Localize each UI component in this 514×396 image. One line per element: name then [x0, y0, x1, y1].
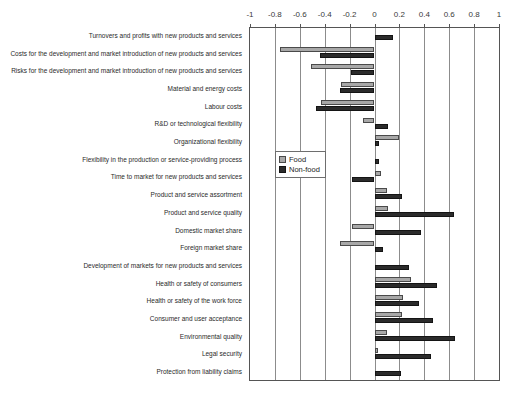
category-label: Risks for the development and market int…	[11, 67, 242, 75]
bar-nonfood	[375, 265, 410, 270]
bar-nonfood	[375, 194, 402, 199]
bar-nonfood	[375, 230, 421, 235]
legend-swatch-nonfood-icon	[279, 166, 286, 173]
bar-row	[250, 99, 499, 117]
category-axis-labels: Turnovers and profits with new products …	[0, 27, 246, 381]
x-tick-label: 0.8	[469, 10, 480, 20]
bar-nonfood	[375, 283, 437, 288]
category-label: Turnovers and profits with new products …	[89, 32, 242, 40]
bar-nonfood	[320, 53, 375, 58]
category-label: Flexibility in the production or service…	[82, 156, 242, 164]
bar-row	[250, 63, 499, 81]
bar-nonfood	[375, 35, 394, 40]
category-label: Foreign market share	[180, 244, 242, 252]
bar-food	[280, 47, 375, 52]
bar-food	[375, 330, 387, 335]
bar-row	[250, 223, 499, 241]
legend-label-food: Food	[289, 155, 306, 164]
bar-food	[375, 206, 389, 211]
x-tick-label: 0.4	[419, 10, 430, 20]
category-label: Consumer and user acceptance	[150, 315, 242, 323]
bar-row	[250, 205, 499, 223]
bar-row	[250, 258, 499, 276]
legend-swatch-food-icon	[279, 156, 286, 163]
category-label: Labour costs	[205, 103, 242, 111]
plot-area	[249, 27, 500, 381]
category-label: Product and service quality	[164, 209, 242, 217]
bar-row	[250, 347, 499, 365]
category-label: Organizational flexibility	[174, 138, 242, 146]
x-tick-mark	[499, 24, 500, 28]
bar-row	[250, 134, 499, 152]
category-label: Legal security	[202, 350, 242, 358]
category-label: Health or safety of consumers	[156, 280, 242, 288]
bar-food	[375, 295, 404, 300]
x-tick-label: 0	[372, 10, 376, 20]
bar-nonfood	[375, 247, 384, 252]
category-label: Health or safety of the work force	[147, 297, 242, 305]
bar-nonfood	[375, 124, 389, 129]
bar-row	[250, 311, 499, 329]
x-tick-label: -0.8	[268, 10, 282, 20]
bar-row	[250, 240, 499, 258]
bar-food	[363, 118, 374, 123]
x-tick-label: -0.6	[293, 10, 307, 20]
category-label: Development of markets for new products …	[83, 262, 242, 270]
bar-food	[341, 82, 375, 87]
bar-nonfood	[375, 336, 456, 341]
bar-nonfood	[352, 177, 374, 182]
legend: Food Non-food	[275, 151, 326, 178]
bar-row	[250, 329, 499, 347]
bar-row	[250, 187, 499, 205]
bar-nonfood	[375, 159, 380, 164]
bar-row	[250, 117, 499, 135]
x-tick-label: -0.4	[318, 10, 332, 20]
bar-row	[250, 276, 499, 294]
bar-nonfood	[375, 212, 455, 217]
bar-food	[375, 312, 402, 317]
bar-food	[375, 188, 387, 193]
bar-food	[311, 64, 374, 69]
bar-food	[340, 241, 375, 246]
bar-nonfood	[375, 318, 434, 323]
bar-row	[250, 28, 499, 46]
category-label: Costs for the development and market int…	[10, 50, 242, 58]
x-tick-label: -0.2	[343, 10, 357, 20]
legend-label-nonfood: Non-food	[289, 165, 320, 174]
bar-food	[321, 100, 375, 105]
bar-food	[375, 135, 400, 140]
category-label: Protection from liability claims	[156, 368, 242, 376]
bar-food	[375, 171, 381, 176]
x-tick-label: 1	[497, 10, 501, 20]
bar-food	[375, 348, 379, 353]
category-label: Environmental quality	[180, 333, 242, 341]
bar-nonfood	[316, 106, 375, 111]
category-label: Time to market for new products and serv…	[111, 173, 242, 181]
category-label: R&D or technological flexibility	[155, 120, 242, 128]
bar-nonfood	[375, 354, 431, 359]
bar-nonfood	[375, 301, 420, 306]
x-tick-label: 0.6	[444, 10, 455, 20]
bar-nonfood	[375, 371, 401, 376]
x-axis-tick-labels: -1-0.8-0.6-0.4-0.200.20.40.60.81	[0, 10, 514, 24]
bar-rows	[250, 28, 499, 380]
legend-item-nonfood: Non-food	[279, 164, 320, 174]
bar-nonfood	[375, 141, 380, 146]
x-tick-label: -1	[246, 10, 253, 20]
x-tick-label: 0.2	[394, 10, 405, 20]
category-label: Material and energy costs	[168, 85, 242, 93]
category-label: Product and service assortment	[151, 191, 242, 199]
bar-nonfood	[340, 88, 375, 93]
bar-food	[352, 224, 374, 229]
category-label: Domestic market share	[175, 227, 242, 235]
bar-row	[250, 46, 499, 64]
bar-food	[375, 277, 411, 282]
bar-row	[250, 294, 499, 312]
legend-item-food: Food	[279, 154, 320, 164]
bar-chart: -1-0.8-0.6-0.4-0.200.20.40.60.81 Turnove…	[0, 0, 514, 396]
bar-row	[250, 364, 499, 382]
bar-row	[250, 81, 499, 99]
bar-nonfood	[351, 70, 375, 75]
